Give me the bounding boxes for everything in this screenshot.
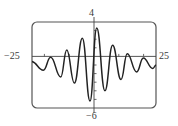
x-max-label: 25	[159, 51, 169, 61]
y-min-label: −6	[86, 111, 97, 121]
y-max-label: 4	[89, 8, 94, 18]
x-min-label: −25	[4, 51, 20, 61]
plot-area	[0, 0, 178, 126]
